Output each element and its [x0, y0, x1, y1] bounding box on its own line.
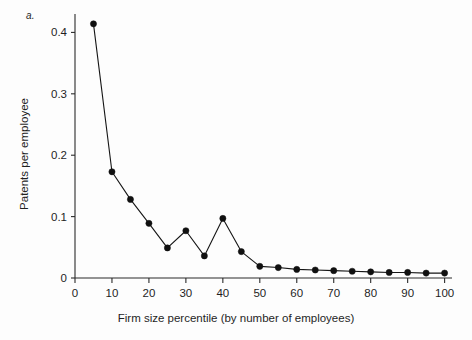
x-tick-label: 50 — [253, 287, 266, 299]
x-tick-label: 40 — [216, 287, 229, 299]
data-point-marker — [238, 249, 244, 255]
data-point-marker — [109, 169, 115, 175]
y-tick-label: 0.1 — [51, 211, 67, 223]
data-point-marker — [442, 270, 448, 276]
data-point-marker — [423, 270, 429, 276]
x-tick-label: 70 — [327, 287, 340, 299]
data-point-marker — [405, 269, 411, 275]
data-point-marker — [146, 220, 152, 226]
x-tick-label: 60 — [290, 287, 303, 299]
data-point-marker — [312, 267, 318, 273]
data-point-marker — [349, 268, 355, 274]
x-tick-label: 30 — [179, 287, 192, 299]
line-chart-plot: 00.10.20.30.40102030405060708090100 — [0, 0, 472, 340]
data-point-marker — [90, 21, 96, 27]
data-point-marker — [386, 269, 392, 275]
x-tick-label: 100 — [435, 287, 454, 299]
y-tick-label: 0.4 — [51, 26, 68, 38]
x-axis-title: Firm size percentile (by number of emplo… — [0, 312, 472, 324]
data-point-marker — [220, 215, 226, 221]
data-point-marker — [294, 266, 300, 272]
data-point-marker — [275, 264, 281, 270]
data-point-marker — [127, 196, 133, 202]
data-point-marker — [201, 253, 207, 259]
y-tick-label: 0.2 — [51, 149, 67, 161]
figure-panel: a. Patents per employee 00.10.20.30.4010… — [0, 0, 472, 340]
data-series-line — [93, 24, 444, 273]
x-tick-label: 80 — [364, 287, 377, 299]
y-tick-label: 0.3 — [51, 88, 67, 100]
data-point-marker — [331, 268, 337, 274]
data-point-marker — [257, 263, 263, 269]
data-point-marker — [183, 228, 189, 234]
x-tick-label: 10 — [106, 287, 119, 299]
x-tick-label: 20 — [143, 287, 156, 299]
data-point-marker — [164, 245, 170, 251]
x-tick-label: 90 — [401, 287, 414, 299]
x-tick-label: 0 — [72, 287, 78, 299]
y-tick-label: 0 — [61, 272, 67, 284]
data-point-marker — [368, 269, 374, 275]
